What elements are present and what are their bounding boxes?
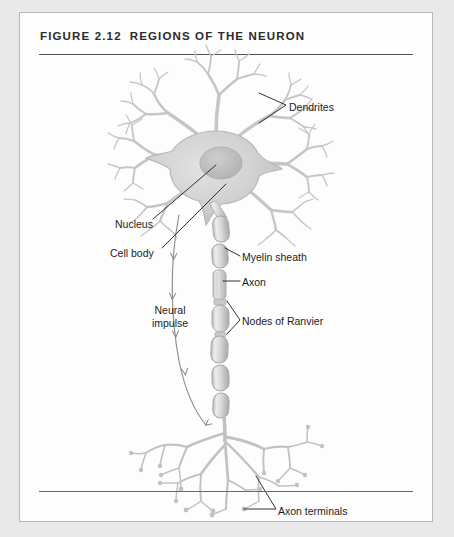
axon-terminals-group — [129, 417, 324, 517]
label-neural-impulse-line2: impulse — [144, 317, 196, 330]
bottom-divider-rule — [39, 491, 413, 492]
myelin-segment — [212, 393, 229, 419]
myelin-segment — [211, 336, 229, 364]
axon-group — [209, 201, 230, 418]
label-axon: Axon — [242, 276, 266, 289]
label-neural-impulse-line1: Neural — [144, 304, 196, 317]
label-cell-body: Cell body — [110, 247, 154, 260]
label-myelin-sheath: Myelin sheath — [242, 251, 307, 264]
axon-fiber-bare — [213, 270, 226, 300]
figure-page: FIGURE 2.12REGIONS OF THE NEURON — [0, 0, 454, 537]
label-nodes-of-ranvier: Nodes of Ranvier — [242, 315, 323, 328]
nucleus-organelle — [200, 147, 242, 179]
label-dendrites: Dendrites — [289, 101, 334, 114]
myelin-segment — [212, 365, 230, 392]
label-neural-impulse: Neural impulse — [144, 304, 196, 330]
label-nucleus: Nucleus — [115, 218, 153, 231]
myelin-segment — [212, 215, 230, 242]
node-of-ranvier — [214, 299, 226, 305]
label-axon-terminals: Axon terminals — [278, 505, 347, 518]
figure-panel: FIGURE 2.12REGIONS OF THE NEURON — [19, 12, 433, 522]
myelin-segment — [212, 305, 229, 332]
myelin-segment — [211, 244, 228, 269]
neuron-illustration — [20, 13, 434, 523]
